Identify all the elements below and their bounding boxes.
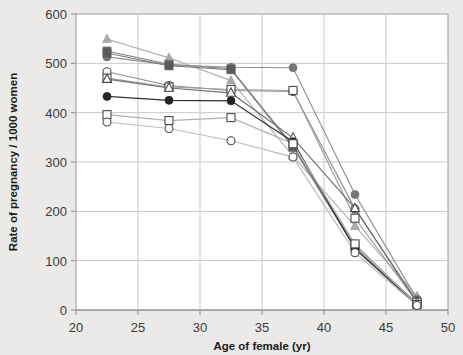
data-point-square-open-light (289, 140, 297, 148)
data-point-circle-filled-black (103, 92, 111, 100)
chart-figure: 0100200300400500600 20253035404550 Age o… (0, 0, 463, 355)
y-tick-label: 0 (60, 303, 67, 318)
y-tick-label: 600 (45, 7, 67, 22)
data-point-square-filled-dark (103, 49, 111, 57)
x-tick-label: 45 (379, 320, 393, 335)
data-point-square-open (289, 86, 297, 94)
y-tick-label: 400 (45, 106, 67, 121)
pregnancy-rate-line-chart: 0100200300400500600 20253035404550 Age o… (0, 0, 463, 355)
data-point-square-open-light (103, 111, 111, 119)
x-tick-label: 20 (69, 320, 83, 335)
x-tick-label: 30 (193, 320, 207, 335)
x-tick-label: 35 (255, 320, 269, 335)
data-point-square-filled-dark (165, 62, 173, 70)
x-axis-title: Age of female (yr) (213, 340, 310, 352)
x-tick-label: 40 (317, 320, 331, 335)
data-point-square-open-light (351, 240, 359, 248)
data-point-circle-filled-black (227, 97, 235, 105)
data-point-square-open-light (165, 117, 173, 125)
y-axis-title: Rate of pregnancy / 1000 women (7, 73, 19, 251)
data-point-circle-open-light (165, 124, 173, 132)
data-point-square-filled-dark (227, 66, 235, 74)
data-point-circle-filled-black (165, 96, 173, 104)
data-point-circle-open-light (351, 249, 359, 257)
data-point-circle-open-light (227, 137, 235, 145)
y-tick-label: 500 (45, 56, 67, 71)
data-point-circle-filled-gray (351, 191, 359, 199)
y-tick-label: 300 (45, 155, 67, 170)
data-point-square-open-light (227, 114, 235, 122)
data-point-circle-filled-gray (289, 64, 297, 72)
x-tick-label: 50 (441, 320, 455, 335)
data-point-circle-open-light (103, 118, 111, 126)
y-tick-label: 100 (45, 254, 67, 269)
x-tick-label: 25 (131, 320, 145, 335)
y-tick-label: 200 (45, 204, 67, 219)
data-point-square-open (351, 214, 359, 222)
data-point-circle-open-light (413, 302, 421, 310)
data-point-circle-open-light (289, 153, 297, 161)
